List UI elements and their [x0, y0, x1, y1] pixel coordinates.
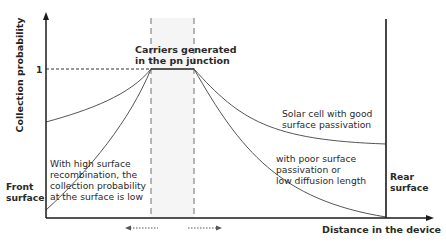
poor-passivation-label: with poor surface passivation or low dif…: [276, 153, 366, 186]
x-axis-arrow-icon: [426, 215, 434, 221]
good-passivation-rear-curve: [194, 69, 386, 144]
rear-surface-label: Rear surface: [390, 171, 428, 193]
y-axis-arrow-icon: [43, 12, 49, 20]
junction-label: Carriers generated in the pn junction: [135, 44, 236, 66]
front-surface-label: Front surface: [6, 181, 44, 203]
good-passivation-label: Solar cell with good surface passivation: [282, 108, 372, 130]
good-passivation-front-curve: [46, 69, 151, 122]
y-tick-one: 1: [36, 64, 42, 75]
right-arrowhead-icon: [216, 226, 222, 231]
left-arrowhead-icon: [125, 226, 131, 231]
collection-probability-diagram: [0, 0, 446, 247]
x-axis-label: Distance in the device: [322, 224, 441, 235]
y-axis-label: Collection probability: [14, 23, 25, 133]
high-recombination-label: With high surface recombination, the col…: [50, 158, 146, 202]
